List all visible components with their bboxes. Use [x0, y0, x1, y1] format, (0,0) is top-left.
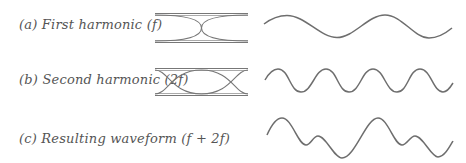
waveform-second-harmonic [265, 69, 453, 92]
string-mode-first-harmonic [155, 14, 248, 43]
waveform-first-harmonic [264, 15, 452, 38]
harmonics-diagram [0, 0, 466, 163]
string-mode-second-harmonic [155, 69, 248, 96]
waveform-resulting [267, 118, 453, 158]
